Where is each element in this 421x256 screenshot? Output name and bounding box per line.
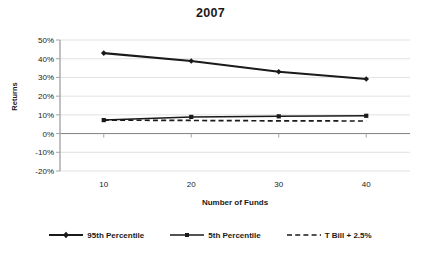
y-tick-label: 0% xyxy=(42,129,54,138)
x-tick-label: 10 xyxy=(99,180,108,189)
y-tick-label: 10% xyxy=(38,110,54,119)
data-point-marker xyxy=(101,50,107,56)
legend-item-3[interactable]: T Bill + 2.5% xyxy=(287,230,372,240)
chart-container: 2007 Returns 50%40%30%20%10%0%-10%-20% 1… xyxy=(0,0,421,256)
y-axis-title: Returns xyxy=(10,67,19,127)
legend-marker xyxy=(63,232,69,238)
y-tick-label: 20% xyxy=(38,92,54,101)
legend-label: 95th Percentile xyxy=(87,231,144,240)
x-axis-title: Number of Funds xyxy=(60,198,410,207)
x-tick-label: 30 xyxy=(274,180,283,189)
legend-swatch-square-solid-thin xyxy=(170,230,204,240)
legend-label: T Bill + 2.5% xyxy=(325,231,372,240)
plot-area: 50%40%30%20%10%0%-10%-20% 10203040 xyxy=(60,40,410,171)
y-tick-label: 50% xyxy=(38,36,54,45)
data-point-marker xyxy=(189,115,193,119)
chart-title: 2007 xyxy=(0,6,421,20)
axis-tick-marks xyxy=(56,40,366,171)
legend-marker xyxy=(185,233,189,237)
gridlines xyxy=(60,40,410,171)
series-line xyxy=(104,120,367,121)
series-line xyxy=(104,53,367,79)
y-tick-label: 30% xyxy=(38,73,54,82)
data-point-marker xyxy=(276,69,282,75)
chart-legend: 95th Percentile5th PercentileT Bill + 2.… xyxy=(0,230,421,240)
legend-item-1[interactable]: 95th Percentile xyxy=(49,230,144,240)
y-tick-label: 40% xyxy=(38,54,54,63)
y-tick-label: -10% xyxy=(35,148,54,157)
x-tick-label: 40 xyxy=(362,180,371,189)
series-line xyxy=(104,116,367,120)
data-point-marker xyxy=(364,114,368,118)
y-tick-label: -20% xyxy=(35,167,54,176)
legend-item-2[interactable]: 5th Percentile xyxy=(170,230,260,240)
data-series-layer xyxy=(101,50,369,122)
legend-swatch-diamond-solid-thick xyxy=(49,230,83,240)
data-point-marker xyxy=(363,76,369,82)
data-point-marker xyxy=(277,114,281,118)
plot-canvas xyxy=(60,40,410,171)
x-tick-label: 20 xyxy=(187,180,196,189)
legend-label: 5th Percentile xyxy=(208,231,260,240)
legend-swatch-none-dashed xyxy=(287,230,321,240)
